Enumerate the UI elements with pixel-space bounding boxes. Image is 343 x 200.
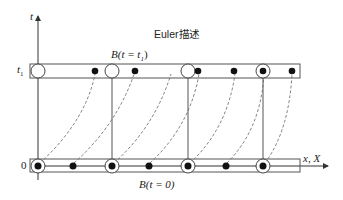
bottom-body-label: B(t = 0) <box>139 178 175 190</box>
x-axis-label: x, X <box>303 152 320 164</box>
top-markers <box>31 64 295 78</box>
diagram-title: Euler描述 <box>154 26 199 41</box>
particle-pathlines <box>40 74 292 163</box>
top-body-label: B(t = t1) <box>111 48 148 63</box>
t1-tick-sub: 1 <box>20 70 24 78</box>
fixed-position-lines <box>112 78 263 165</box>
zero-tick-label: 0 <box>21 159 27 171</box>
euler-description-diagram: t Euler描述 B(t = t1) t1 0 x, X B(t = 0) <box>0 0 343 200</box>
t1-tick-label: t1 <box>17 63 24 78</box>
top-body-label-end: ) <box>144 48 148 60</box>
t-axis-label: t <box>30 10 33 22</box>
top-body-label-main: B(t = t <box>111 48 140 60</box>
